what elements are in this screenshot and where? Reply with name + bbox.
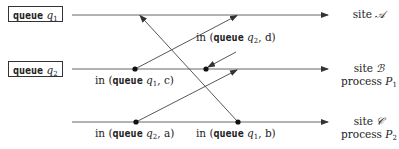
label-kw: queue (113, 75, 143, 86)
queue-sub: 2 (53, 70, 57, 78)
site-word: site (353, 8, 372, 20)
site-var: 𝒜 (375, 8, 385, 20)
queue-box-q1: queue q1 (8, 6, 63, 22)
event-dot-a (133, 119, 138, 124)
site-var: ℬ (376, 62, 384, 74)
label-pre: in ( (196, 127, 214, 139)
event-label-c: in (queue q1, c) (95, 74, 174, 88)
label-var: q (146, 74, 153, 86)
queue-keyword: queue (13, 65, 43, 76)
site-label-b: site ℬ process P1 (334, 62, 399, 92)
event-dot-b (235, 119, 240, 124)
site-label-c: site 𝒞 process P2 (334, 115, 399, 145)
label-pre: in ( (95, 74, 113, 86)
label-kw: queue (214, 128, 244, 139)
process-word: process (341, 75, 382, 87)
label-pre: in ( (95, 127, 113, 139)
process-word: process (341, 128, 382, 140)
event-dot-c (132, 66, 137, 71)
label-post: , b) (258, 127, 276, 139)
site-word: site (354, 62, 373, 74)
queue-sub: 1 (53, 15, 57, 23)
process-sub: 1 (392, 81, 396, 89)
label-post: , d) (258, 31, 276, 43)
event-label-b: in (queue q1, b) (196, 127, 276, 141)
site-label-a: site 𝒜 (334, 8, 399, 21)
label-var: q (247, 31, 254, 43)
site-var: 𝒞 (376, 115, 384, 127)
site-word: site (354, 115, 373, 127)
label-var: q (247, 127, 254, 139)
event-dot-d (203, 66, 208, 71)
queue-box-q2: queue q2 (8, 61, 63, 77)
label-pre: in ( (196, 31, 214, 43)
leader-d (208, 52, 236, 67)
label-post: , a) (157, 127, 174, 139)
label-post: , c) (157, 74, 174, 86)
label-kw: queue (113, 128, 143, 139)
label-var: q (146, 127, 153, 139)
queue-keyword: queue (13, 10, 43, 21)
event-label-d: in (queue q2, d) (196, 31, 276, 45)
process-sub: 2 (392, 134, 396, 142)
event-label-a: in (queue q2, a) (95, 127, 174, 141)
label-kw: queue (214, 32, 244, 43)
